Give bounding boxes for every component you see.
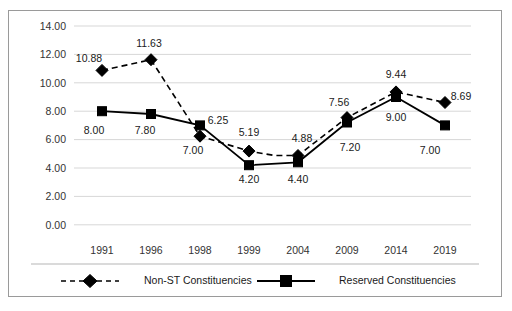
label-nonst-1999: 5.19 <box>239 126 260 138</box>
label-nonst-2019: 8.69 <box>451 90 472 102</box>
label-reserved-2009: 7.20 <box>340 141 361 153</box>
label-reserved-2019: 7.00 <box>420 144 441 156</box>
label-nonst-2009: 7.56 <box>329 96 350 108</box>
marker-reserved-1999 <box>245 161 254 170</box>
x-axis-labels: 1991 1996 1998 1999 2004 2009 2014 2019 <box>90 244 457 256</box>
line-chart: 14.00 12.00 10.00 8.00 6.00 4.00 2.00 0.… <box>9 11 501 296</box>
y-tick-6: 6.00 <box>46 133 67 145</box>
chart-legend: Non-ST Constituencies Reserved Constitue… <box>61 274 456 288</box>
legend-diamond-icon <box>83 275 97 288</box>
y-tick-12: 12.00 <box>40 48 66 60</box>
marker-reserved-1991 <box>98 107 107 116</box>
marker-reserved-1996 <box>147 110 156 119</box>
label-reserved-1999: 4.20 <box>239 173 260 185</box>
x-tick-2004: 2004 <box>286 244 310 256</box>
x-tick-1999: 1999 <box>237 244 261 256</box>
marker-nonst-1996 <box>145 54 157 66</box>
y-tick-14: 14.00 <box>40 20 66 32</box>
label-reserved-1991: 8.00 <box>84 124 105 136</box>
gridlines <box>74 26 471 225</box>
marker-reserved-2019 <box>441 121 450 130</box>
x-tick-1996: 1996 <box>139 244 163 256</box>
x-tick-2019: 2019 <box>433 244 457 256</box>
data-labels-reserved: 8.00 7.80 7.00 4.20 4.40 7.20 9.00 7.00 <box>84 111 441 185</box>
y-tick-8: 8.00 <box>46 105 67 117</box>
y-axis-labels: 14.00 12.00 10.00 8.00 6.00 4.00 2.00 0.… <box>40 20 66 231</box>
marker-nonst-1991 <box>96 64 108 76</box>
label-reserved-1996: 7.80 <box>135 124 156 136</box>
marker-reserved-1998 <box>196 121 205 130</box>
label-nonst-1996: 11.63 <box>136 37 162 49</box>
chart-figure: 14.00 12.00 10.00 8.00 6.00 4.00 2.00 0.… <box>8 10 502 297</box>
legend-entry-reserved[interactable]: Reserved Constituencies <box>257 274 456 287</box>
label-nonst-2004: 4.88 <box>292 132 313 144</box>
marker-nonst-1999 <box>243 145 255 157</box>
label-nonst-1991: 10.88 <box>76 52 102 64</box>
marker-nonst-2019 <box>439 97 451 109</box>
legend-entry-nonst[interactable]: Non-ST Constituencies <box>61 274 252 288</box>
label-reserved-2004: 4.40 <box>288 173 309 185</box>
label-nonst-1998: 6.25 <box>208 114 229 126</box>
legend-square-icon <box>281 276 292 287</box>
x-tick-2014: 2014 <box>384 244 408 256</box>
y-tick-2: 2.00 <box>46 190 67 202</box>
label-reserved-2014: 9.00 <box>386 111 407 123</box>
y-tick-4: 4.00 <box>46 162 67 174</box>
x-tick-2009: 2009 <box>335 244 359 256</box>
y-tick-0: 0.00 <box>46 219 67 231</box>
x-tick-1998: 1998 <box>188 244 212 256</box>
y-tick-10: 10.00 <box>40 77 66 89</box>
legend-label-reserved: Reserved Constituencies <box>339 274 456 286</box>
marker-nonst-1998 <box>194 130 206 142</box>
legend-label-nonst: Non-ST Constituencies <box>144 274 252 286</box>
label-reserved-1998: 7.00 <box>183 144 204 156</box>
x-tick-1991: 1991 <box>90 244 114 256</box>
label-nonst-2014: 9.44 <box>386 68 407 80</box>
